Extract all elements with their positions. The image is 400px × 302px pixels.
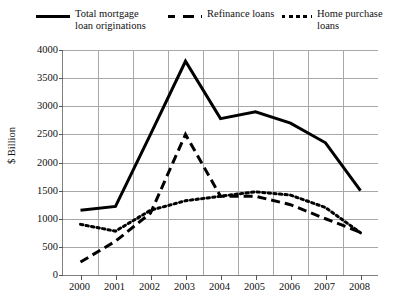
- y-tick-label: 2500: [16, 129, 58, 139]
- x-tick-mark: [151, 275, 152, 280]
- y-tick-label: 3000: [16, 101, 58, 111]
- x-tick-label: 2007: [305, 281, 345, 292]
- series-line-dashed: [81, 134, 361, 262]
- x-tick-mark: [116, 275, 117, 280]
- x-tick-mark: [221, 275, 222, 280]
- y-tick-mark: [59, 275, 63, 276]
- x-tick-label: 2002: [130, 281, 170, 292]
- x-tick-label: 2000: [60, 281, 100, 292]
- x-tick-label: 2003: [165, 281, 205, 292]
- x-tick-mark: [81, 275, 82, 280]
- legend-label-total-mortgage: Total mortgage loan originations: [75, 8, 146, 32]
- y-tick-label: 1500: [16, 186, 58, 196]
- series-line-dotted: [81, 192, 361, 233]
- x-tick-mark: [361, 275, 362, 280]
- legend-swatch-dashed-icon: [168, 10, 202, 22]
- x-tick-mark: [326, 275, 327, 280]
- legend-swatch-dotted-icon: [278, 10, 312, 22]
- plot-area: [62, 50, 378, 276]
- x-tick-mark: [291, 275, 292, 280]
- y-tick-label: 0: [16, 270, 58, 280]
- series-lines: [63, 50, 378, 275]
- y-tick-label: 500: [16, 242, 58, 252]
- x-tick-label: 2005: [235, 281, 275, 292]
- mortgage-originations-chart: Total mortgage loan originations Refinan…: [0, 0, 400, 302]
- y-tick-label: 3500: [16, 73, 58, 83]
- series-line-solid: [81, 61, 361, 210]
- x-tick-mark: [256, 275, 257, 280]
- y-tick-label: 2000: [16, 158, 58, 168]
- x-tick-mark: [186, 275, 187, 280]
- legend-item-refinance: Refinance loans: [168, 8, 274, 22]
- x-tick-label: 2004: [200, 281, 240, 292]
- legend-item-total-mortgage: Total mortgage loan originations: [36, 8, 146, 32]
- legend-item-home-purchase: Home purchase loans: [278, 8, 383, 32]
- x-tick-label: 2008: [340, 281, 380, 292]
- legend-swatch-solid-icon: [36, 10, 70, 22]
- x-tick-label: 2006: [270, 281, 310, 292]
- legend-label-refinance: Refinance loans: [207, 8, 274, 20]
- x-tick-label: 2001: [95, 281, 135, 292]
- legend-label-home-purchase: Home purchase loans: [317, 8, 383, 32]
- chart-legend: Total mortgage loan originations Refinan…: [0, 8, 400, 44]
- y-axis-title: $ Billion: [6, 116, 17, 176]
- y-tick-label: 4000: [16, 45, 58, 55]
- y-tick-label: 1000: [16, 214, 58, 224]
